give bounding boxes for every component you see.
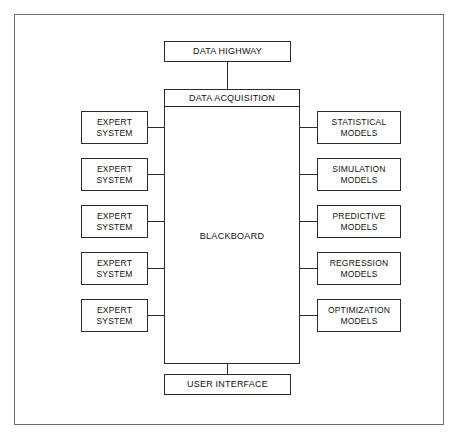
- node-expert-system-3[interactable]: EXPERT SYSTEM: [81, 205, 148, 238]
- node-predictive-models[interactable]: PREDICTIVE MODELS: [317, 205, 401, 238]
- node-expert-system-2[interactable]: EXPERT SYSTEM: [81, 158, 148, 191]
- node-optimization-models-label: OPTIMIZATION MODELS: [328, 305, 390, 326]
- connector-expert-5: [148, 315, 164, 316]
- node-expert-system-4-label: EXPERT SYSTEM: [96, 258, 132, 279]
- connector-expert-1: [148, 127, 164, 128]
- node-statistical-models[interactable]: STATISTICAL MODELS: [317, 111, 401, 144]
- node-user-interface-label: USER INTERFACE: [187, 379, 268, 390]
- node-expert-system-1[interactable]: EXPERT SYSTEM: [81, 111, 148, 144]
- connector-model-1: [300, 127, 317, 128]
- connector-model-2: [300, 174, 317, 175]
- node-predictive-models-label: PREDICTIVE MODELS: [332, 211, 385, 232]
- connector-model-4: [300, 268, 317, 269]
- node-user-interface[interactable]: USER INTERFACE: [164, 374, 291, 395]
- node-blackboard[interactable]: DATA ACQUISITION BLACKBOARD: [164, 89, 300, 364]
- node-expert-system-2-label: EXPERT SYSTEM: [96, 164, 132, 185]
- node-regression-models-label: REGRESSION MODELS: [330, 258, 389, 279]
- node-simulation-models[interactable]: SIMULATION MODELS: [317, 158, 401, 191]
- node-statistical-models-label: STATISTICAL MODELS: [332, 117, 387, 138]
- node-data-highway[interactable]: DATA HIGHWAY: [164, 41, 291, 62]
- connector-expert-2: [148, 174, 164, 175]
- diagram-outer-frame: DATA HIGHWAY DATA ACQUISITION BLACKBOARD…: [14, 14, 444, 425]
- node-expert-system-5-label: EXPERT SYSTEM: [96, 305, 132, 326]
- node-data-acquisition[interactable]: DATA ACQUISITION: [165, 90, 299, 107]
- connector-expert-3: [148, 221, 164, 222]
- connector-highway-to-acquisition: [227, 62, 228, 89]
- node-simulation-models-label: SIMULATION MODELS: [332, 164, 385, 185]
- node-data-acquisition-label: DATA ACQUISITION: [189, 93, 275, 103]
- connector-model-5: [300, 315, 317, 316]
- node-data-highway-label: DATA HIGHWAY: [193, 46, 262, 57]
- node-blackboard-label: BLACKBOARD: [200, 231, 265, 241]
- diagram-canvas: DATA HIGHWAY DATA ACQUISITION BLACKBOARD…: [0, 0, 460, 444]
- connector-expert-4: [148, 268, 164, 269]
- node-regression-models[interactable]: REGRESSION MODELS: [317, 252, 401, 285]
- node-expert-system-3-label: EXPERT SYSTEM: [96, 211, 132, 232]
- node-expert-system-4[interactable]: EXPERT SYSTEM: [81, 252, 148, 285]
- connector-model-3: [300, 221, 317, 222]
- node-optimization-models[interactable]: OPTIMIZATION MODELS: [317, 299, 401, 332]
- connector-blackboard-to-interface: [227, 364, 228, 374]
- node-expert-system-1-label: EXPERT SYSTEM: [96, 117, 132, 138]
- node-blackboard-label-wrap: BLACKBOARD: [165, 107, 299, 365]
- node-expert-system-5[interactable]: EXPERT SYSTEM: [81, 299, 148, 332]
